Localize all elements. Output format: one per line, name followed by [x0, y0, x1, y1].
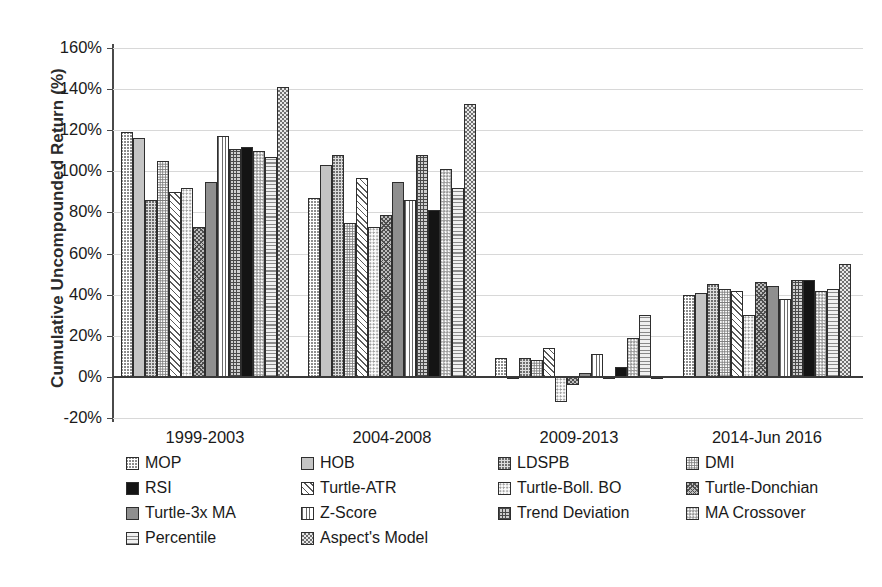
bar	[344, 223, 356, 377]
bar	[133, 138, 145, 376]
bar	[332, 155, 344, 377]
legend-swatch-icon	[301, 482, 314, 495]
bar	[555, 377, 567, 402]
legend-item[interactable]: Turtle-ATR	[301, 480, 396, 496]
bar	[531, 360, 543, 376]
legend-item[interactable]: MA Crossover	[686, 505, 805, 521]
legend-label: MOP	[145, 455, 181, 471]
y-axis-tick-label: -20%	[28, 408, 102, 427]
bar	[707, 284, 719, 377]
bar	[121, 132, 133, 377]
bar	[779, 299, 791, 377]
bar	[356, 178, 368, 377]
legend-item[interactable]: LDSPB	[498, 455, 569, 471]
y-axis-tick-label: 140%	[28, 79, 102, 98]
legend-label: Z-Score	[320, 505, 377, 521]
bar	[253, 151, 265, 377]
bar	[265, 157, 277, 377]
bar	[205, 182, 217, 377]
legend-item[interactable]: RSI	[126, 480, 172, 496]
bar	[743, 315, 755, 377]
legend-swatch-icon	[126, 532, 139, 545]
legend-row: Turtle-3x MAZ-ScoreTrend DeviationMA Cro…	[126, 505, 882, 530]
y-axis-tick-label: 60%	[28, 244, 102, 263]
bar	[683, 295, 695, 377]
legend-swatch-icon	[498, 507, 511, 520]
bar	[567, 377, 579, 385]
legend-item[interactable]: Trend Deviation	[498, 505, 629, 521]
x-axis-category-label: 2014-Jun 2016	[657, 428, 877, 447]
legend-label: Turtle-3x MA	[145, 505, 236, 521]
bar	[217, 136, 229, 377]
legend-item[interactable]: Percentile	[126, 530, 216, 546]
legend-item[interactable]: DMI	[686, 455, 734, 471]
bar	[827, 289, 839, 377]
bar	[543, 348, 555, 377]
legend-row: RSITurtle-ATRTurtle-Boll. BOTurtle-Donch…	[126, 480, 882, 505]
bar	[404, 200, 416, 377]
legend-swatch-icon	[126, 457, 139, 470]
y-axis-tick-label: 160%	[28, 38, 102, 57]
bar	[193, 227, 205, 377]
plot-area	[113, 48, 863, 418]
bar	[815, 291, 827, 377]
bar	[157, 161, 169, 377]
legend-label: Aspect's Model	[320, 530, 428, 546]
legend-swatch-icon	[498, 457, 511, 470]
legend-label: Turtle-Boll. BO	[517, 480, 621, 496]
y-axis-tick-label: 40%	[28, 285, 102, 304]
gridline	[113, 48, 863, 49]
legend-item[interactable]: Aspect's Model	[301, 530, 428, 546]
bar	[519, 358, 531, 377]
x-axis-category-label: 2009-2013	[469, 428, 689, 447]
legend-swatch-icon	[686, 482, 699, 495]
bar	[241, 147, 253, 377]
bar	[380, 215, 392, 377]
page-edge	[0, 575, 882, 587]
y-axis-tick-label: 20%	[28, 326, 102, 345]
legend-item[interactable]: Turtle-Boll. BO	[498, 480, 621, 496]
legend-label: Turtle-ATR	[320, 480, 396, 496]
bar	[767, 286, 779, 376]
y-axis-tick-label: 100%	[28, 161, 102, 180]
legend-label: LDSPB	[517, 455, 569, 471]
gridline	[113, 418, 863, 419]
bar-chart: Cumulative Uncompounded Return (%) 160%1…	[0, 0, 882, 587]
bar	[839, 264, 851, 377]
legend-swatch-icon	[686, 457, 699, 470]
y-axis-tick-label: 0%	[28, 367, 102, 386]
gridline	[113, 130, 863, 131]
bar	[181, 188, 193, 377]
bar	[368, 227, 380, 377]
bar	[428, 210, 440, 377]
bar	[277, 87, 289, 377]
bar	[169, 192, 181, 377]
zero-axis-line	[113, 376, 863, 378]
bar	[308, 198, 320, 377]
bar	[591, 354, 603, 377]
legend-swatch-icon	[126, 482, 139, 495]
legend-swatch-icon	[301, 532, 314, 545]
bar	[731, 291, 743, 377]
legend-item[interactable]: Turtle-3x MA	[126, 505, 236, 521]
gridline	[113, 89, 863, 90]
bar	[320, 165, 332, 377]
legend-swatch-icon	[301, 457, 314, 470]
legend-swatch-icon	[126, 507, 139, 520]
legend-swatch-icon	[686, 507, 699, 520]
legend-label: DMI	[705, 455, 734, 471]
legend-item[interactable]: Z-Score	[301, 505, 377, 521]
legend-item[interactable]: Turtle-Donchian	[686, 480, 818, 496]
bar	[639, 315, 651, 377]
bar	[452, 188, 464, 377]
legend-label: RSI	[145, 480, 172, 496]
bar	[755, 282, 767, 377]
legend-item[interactable]: HOB	[301, 455, 355, 471]
bar	[145, 200, 157, 377]
legend-label: Turtle-Donchian	[705, 480, 818, 496]
bar	[803, 280, 815, 377]
bar	[695, 293, 707, 377]
legend-item[interactable]: MOP	[126, 455, 181, 471]
legend-label: MA Crossover	[705, 505, 805, 521]
bar	[495, 358, 507, 377]
